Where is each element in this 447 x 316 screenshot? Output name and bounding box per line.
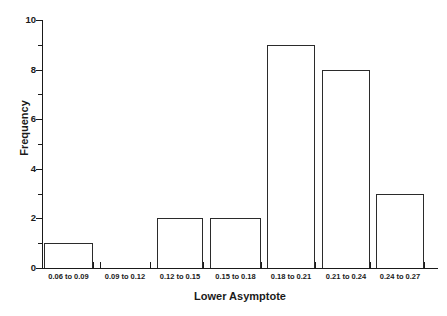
x-tick — [424, 262, 425, 268]
x-tick — [150, 262, 151, 268]
y-tick-minor — [38, 45, 42, 46]
histogram-figure: 0246810 0.06 to 0.090.09 to 0.120.12 to … — [0, 0, 447, 316]
y-tick-major — [36, 218, 42, 219]
y-tick-minor — [38, 94, 42, 95]
y-tick-label: 8 — [12, 65, 36, 75]
y-tick-minor — [38, 144, 42, 145]
x-tick — [370, 262, 371, 268]
x-axis-line — [42, 268, 438, 269]
bar — [157, 218, 203, 268]
y-tick-major — [36, 169, 42, 170]
x-tick — [203, 262, 204, 268]
bar — [376, 194, 424, 268]
bar — [210, 218, 261, 268]
x-tick — [100, 262, 101, 268]
x-tick — [93, 262, 94, 268]
y-tick-label: 0 — [12, 263, 36, 273]
y-tick-label: 2 — [12, 213, 36, 223]
y-axis-line — [42, 20, 43, 269]
y-tick-major — [36, 20, 42, 21]
x-axis-title: Lower Asymptote — [42, 290, 438, 302]
bar — [322, 70, 370, 268]
x-tick — [261, 262, 262, 268]
x-tick-label: 0.24 to 0.27 — [365, 272, 435, 281]
y-tick-minor — [38, 194, 42, 195]
x-tick — [315, 262, 316, 268]
y-axis-title: Frequency — [18, 78, 30, 178]
y-tick-major — [36, 70, 42, 71]
y-tick-label: 10 — [12, 15, 36, 25]
y-tick-major — [36, 268, 42, 269]
y-tick-minor — [38, 243, 42, 244]
y-tick-major — [36, 119, 42, 120]
bar — [267, 45, 315, 268]
bar — [44, 243, 93, 268]
